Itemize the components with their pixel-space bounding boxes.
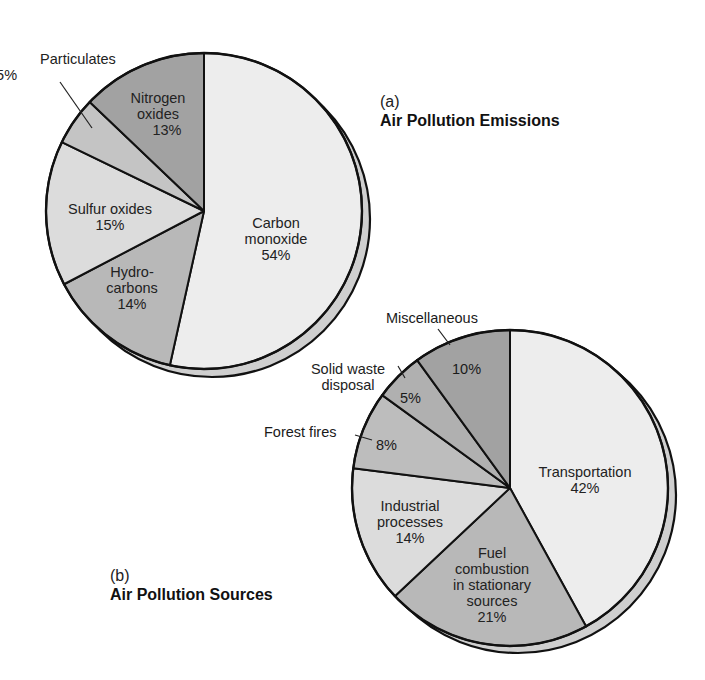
panel-b-letter: (b) — [110, 566, 273, 585]
label-solid-waste: Solid waste disposal — [311, 361, 385, 393]
label-hydrocarbons: Hydro- carbons 14% — [106, 264, 158, 312]
panel-a-heading: (a) Air Pollution Emissions — [380, 92, 560, 130]
label-miscellaneous: Miscellaneous — [386, 310, 478, 326]
panel-b-heading: (b) Air Pollution Sources — [110, 566, 273, 604]
label-solid-waste-pct: 5% — [400, 390, 421, 406]
miscellaneous-leader-line — [438, 329, 450, 345]
panel-a-title: Air Pollution Emissions — [380, 111, 560, 130]
label-carbon-monoxide: Carbon monoxide 54% — [245, 215, 308, 263]
label-forest-fires-pct: 8% — [376, 437, 397, 453]
label-miscellaneous-pct: 10% — [452, 361, 481, 377]
label-particulates: Particulates 5% — [40, 51, 116, 83]
label-sulfur-oxides: Sulfur oxides 15% — [68, 201, 152, 233]
panel-a-letter: (a) — [380, 92, 560, 111]
label-fuel-combustion: Fuel combustion in stationary sources 21… — [453, 545, 531, 625]
label-transportation: Transportation 42% — [539, 464, 632, 496]
label-industrial-processes: Industrial processes 14% — [377, 498, 443, 546]
label-nitrogen-oxides: Nitrogen oxides 13% — [131, 90, 186, 138]
pie-charts-canvas — [0, 0, 705, 680]
panel-b-title: Air Pollution Sources — [110, 585, 273, 604]
label-forest-fires: Forest fires — [264, 424, 337, 440]
